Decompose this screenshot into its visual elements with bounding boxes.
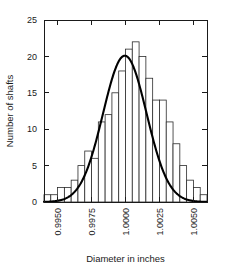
x-axis-tick-label: 1.0025 — [155, 208, 165, 236]
x-axis-tick-label: 1.0000 — [121, 208, 131, 236]
y-axis-tick-label: 20 — [27, 52, 37, 62]
x-axis-tick-label: 1.0050 — [189, 208, 199, 236]
histogram-bar — [126, 49, 133, 202]
y-axis-tick-label: 10 — [27, 124, 37, 134]
y-axis-tick-label: 0 — [32, 197, 37, 207]
histogram-bar — [105, 115, 112, 202]
histogram-bar — [166, 122, 173, 202]
histogram-bar — [159, 100, 166, 202]
histogram-bar — [119, 71, 126, 202]
y-axis-tick-label: 25 — [27, 15, 37, 25]
histogram-bar — [112, 93, 119, 202]
chart-canvas: 05101520250.99500.99751.00001.00251.0050… — [0, 0, 234, 267]
y-axis-tick-label: 5 — [32, 161, 37, 171]
histogram-bar — [193, 187, 200, 202]
histogram-bar — [92, 158, 99, 202]
y-axis-tick-label: 15 — [27, 88, 37, 98]
x-axis-title: Diameter in inches — [86, 253, 165, 264]
x-axis-tick-label: 0.9975 — [87, 208, 97, 236]
histogram-bar — [139, 56, 146, 202]
x-axis-tick-label: 0.9950 — [53, 208, 63, 236]
histogram-chart: 05101520250.99500.99751.00001.00251.0050… — [0, 0, 234, 267]
y-axis-title: Number of shafts — [4, 75, 15, 148]
histogram-bar — [146, 78, 153, 202]
histogram-bar — [98, 122, 105, 202]
